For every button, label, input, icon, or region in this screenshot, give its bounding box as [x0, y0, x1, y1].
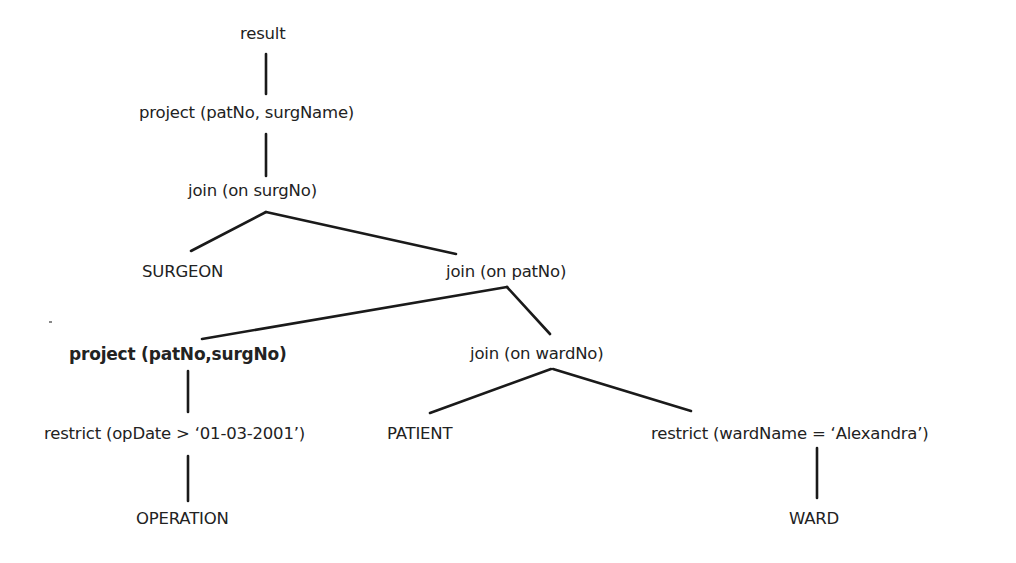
- node-result: result: [240, 24, 285, 44]
- edge-join-surgno-surgeon: [191, 212, 266, 251]
- edge-join-wardno-patient: [430, 369, 551, 413]
- edge-join-surgno-join-patno: [266, 212, 456, 254]
- node-join-patno: join (on patNo): [446, 262, 566, 282]
- node-restrict-wardname: restrict (wardName = ‘Alexandra’): [651, 424, 929, 444]
- edge-join-patno-join-wardno: [507, 287, 550, 334]
- node-project-top: project (patNo, surgName): [139, 103, 354, 123]
- node-operation: OPERATION: [136, 509, 229, 529]
- edge-join-wardno-restrict: [553, 369, 691, 411]
- node-project-inner: project (patNo,surgNo): [69, 344, 287, 364]
- node-patient: PATIENT: [387, 424, 452, 444]
- node-restrict-opdate: restrict (opDate > ‘01-03-2001’): [44, 424, 305, 444]
- node-join-wardno: join (on wardNo): [470, 344, 603, 364]
- edge-join-patno-project-inner: [202, 287, 507, 339]
- scan-artifact: [49, 321, 52, 323]
- node-surgeon: SURGEON: [142, 262, 223, 282]
- node-join-surgno: join (on surgNo): [188, 181, 317, 201]
- node-ward: WARD: [789, 509, 839, 529]
